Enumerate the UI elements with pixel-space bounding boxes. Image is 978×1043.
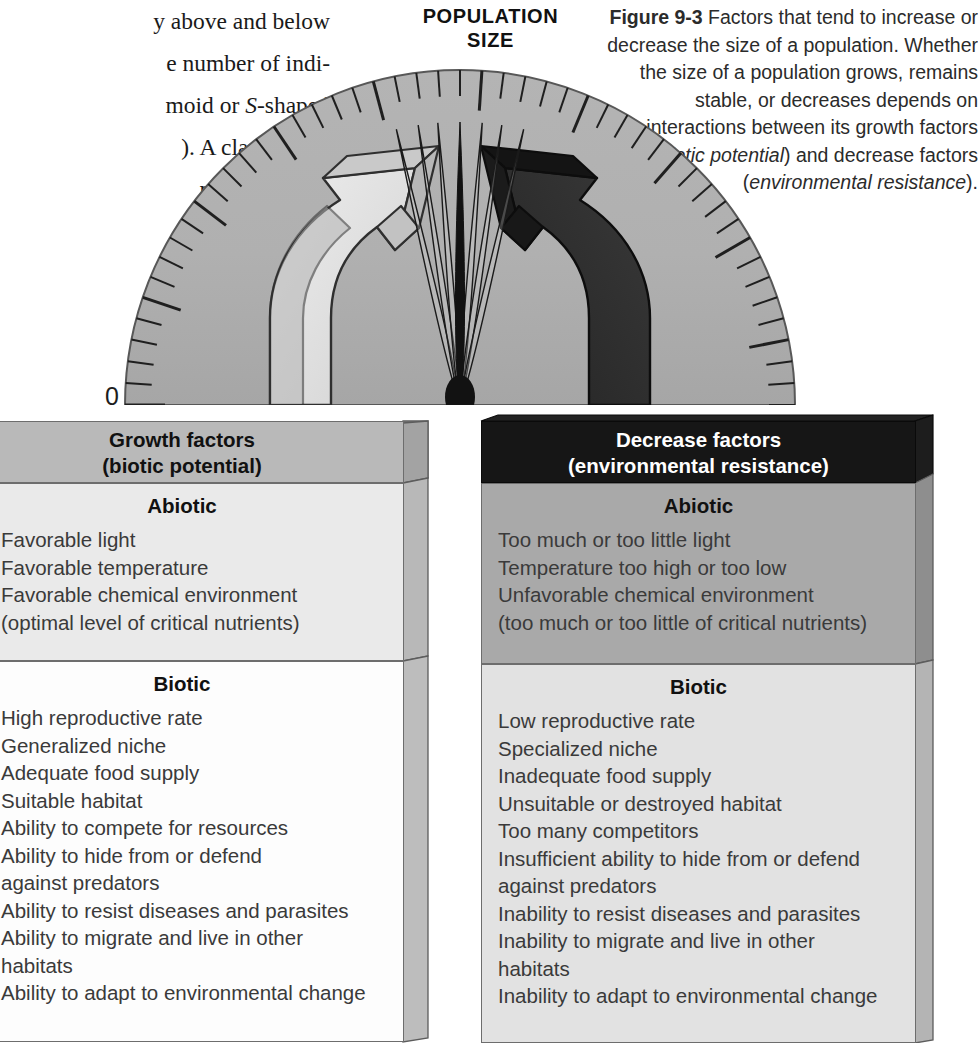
- right-biotic-item: Specialized niche: [498, 735, 915, 763]
- population-size-gauge: 0: [95, 60, 895, 430]
- right-biotic-item: Inability to migrate and live in other h…: [498, 927, 915, 982]
- right-panel-header: Decrease factors (environmental resistan…: [481, 421, 916, 483]
- right-biotic-item: Inadequate food supply: [498, 762, 915, 790]
- gauge-label: POPULATION SIZE: [383, 4, 598, 52]
- right-abiotic-item: Unfavorable chemical environment (too mu…: [498, 581, 915, 636]
- growth-factors-panel: Growth factors (biotic potential) Abioti…: [0, 418, 430, 1043]
- left-panel-biotic-section: Biotic High reproductive rate Generalize…: [0, 661, 404, 1042]
- left-abiotic-item: Favorable chemical environment (optimal …: [1, 581, 403, 636]
- left-biotic-item: Ability to adapt to environmental change: [1, 979, 403, 1007]
- right-biotic-item: Unsuitable or destroyed habitat: [498, 790, 915, 818]
- right-biotic-item: Insufficient ability to hide from or def…: [498, 845, 915, 900]
- right-abiotic-item: Too much or too little light: [498, 526, 915, 554]
- left-biotic-item: High reproductive rate: [1, 704, 403, 732]
- right-biotic-item: Low reproductive rate: [498, 707, 915, 735]
- right-panel-abiotic-section: Abiotic Too much or too little light Tem…: [481, 483, 916, 664]
- left-biotic-item: Ability to resist diseases and parasites: [1, 897, 403, 925]
- left-biotic-item: Adequate food supply: [1, 759, 403, 787]
- left-biotic-item: Generalized niche: [1, 732, 403, 760]
- right-biotic-item: Inability to resist diseases and parasit…: [498, 900, 915, 928]
- left-biotic-item: Ability to migrate and live in other hab…: [1, 924, 403, 979]
- left-panel-abiotic-section: Abiotic Favorable light Favorable temper…: [0, 483, 404, 661]
- left-biotic-title: Biotic: [0, 662, 403, 696]
- figure-page: y above and below e number of indi- moid…: [0, 0, 978, 1043]
- needle-pivot: [445, 375, 475, 419]
- left-biotic-item: Suitable habitat: [1, 787, 403, 815]
- right-abiotic-item: Temperature too high or too low: [498, 554, 915, 582]
- left-abiotic-item: Favorable temperature: [1, 554, 403, 582]
- figure-number: Figure 9-3: [610, 6, 703, 28]
- gauge-zero-label: 0: [105, 382, 119, 410]
- right-biotic-title: Biotic: [482, 665, 915, 699]
- right-panel-header-text: Decrease factors (environmental resistan…: [482, 422, 915, 479]
- left-panel-header: Growth factors (biotic potential): [0, 421, 404, 483]
- left-biotic-item: Ability to compete for resources: [1, 814, 403, 842]
- decrease-factors-panel: Decrease factors (environmental resistan…: [478, 412, 943, 1043]
- right-biotic-item: Inability to adapt to environmental chan…: [498, 982, 915, 1010]
- left-panel-header-text: Growth factors (biotic potential): [0, 422, 403, 479]
- caption-part-3: ).: [966, 171, 978, 193]
- body-line: y above and below: [0, 0, 330, 42]
- right-panel-biotic-section: Biotic Low reproductive rate Specialized…: [481, 664, 916, 1043]
- left-abiotic-item: Favorable light: [1, 526, 403, 554]
- left-biotic-item: Ability to hide from or defend against p…: [1, 842, 403, 897]
- left-abiotic-title: Abiotic: [0, 484, 403, 518]
- right-biotic-item: Too many competitors: [498, 817, 915, 845]
- right-abiotic-title: Abiotic: [482, 484, 915, 518]
